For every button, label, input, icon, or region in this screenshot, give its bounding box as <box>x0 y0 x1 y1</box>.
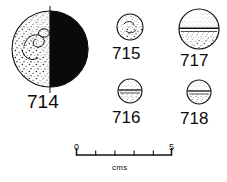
object-717-shading <box>177 9 221 51</box>
finds-plate: 714 715 716 717 718 0 5 cms <box>0 0 227 182</box>
object-718-drawing <box>185 80 213 105</box>
object-716-shading <box>116 79 144 104</box>
catalogue-label-715: 715 <box>112 45 140 62</box>
object-714-shading <box>10 11 50 87</box>
catalogue-label-714: 714 <box>27 92 59 111</box>
object-716-drawing <box>116 79 144 104</box>
catalogue-label-718: 718 <box>180 110 208 127</box>
object-717-drawing <box>177 9 221 51</box>
catalogue-label-717: 717 <box>180 52 208 69</box>
scale-start-label: 0 <box>74 142 79 152</box>
catalogue-label-716: 716 <box>112 109 140 126</box>
object-715-drawing <box>117 14 144 41</box>
scale-end-label: 5 <box>169 142 174 152</box>
object-714-drawing <box>10 6 88 93</box>
object-714-black-hemisphere <box>50 11 88 87</box>
scale-unit-label: cms <box>112 163 128 172</box>
scale-bar <box>76 148 172 156</box>
